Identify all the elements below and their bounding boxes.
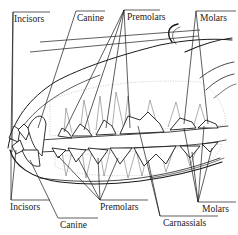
label-molars-lower: Molars <box>202 205 229 215</box>
label-molars-upper: Molars <box>200 14 227 24</box>
jaw-illustration <box>0 0 238 235</box>
label-premolars-lower: Premolars <box>100 203 139 213</box>
label-incisors-lower: Incisors <box>10 203 40 213</box>
label-premolars-upper: Premolars <box>127 13 166 23</box>
label-canine-lower: Canine <box>60 221 87 231</box>
label-canine-upper: Canine <box>77 14 104 24</box>
jaw-diagram: Incisors Canine Premolars Molars Incisor… <box>0 0 238 235</box>
label-incisors-upper: Incisors <box>14 15 44 25</box>
label-carnassials-lower: Carnassials <box>163 219 206 229</box>
